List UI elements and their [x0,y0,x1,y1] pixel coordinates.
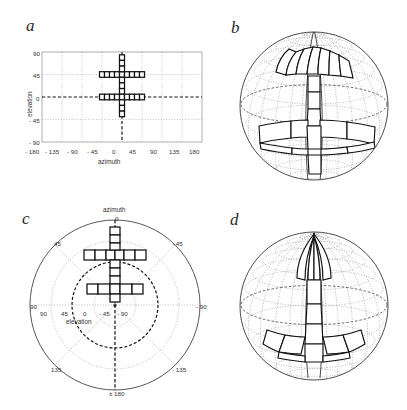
panel-a-letter: a [26,16,35,36]
panel-a-ytick-0: 0 [36,95,39,102]
panel-d: d [203,200,407,410]
panel-a-ytick-90: 90 [33,50,40,57]
panel-c: c azimuth 0 45 - 45 90 - 90 135 - 135 ± … [0,200,204,410]
panel-a: a 90 45 0 - 45 - 90 elevation - 180 - 13… [0,0,204,205]
panel-a-ytick-m45: - 45 [29,117,40,124]
panel-a-xlabel: azimuth [98,158,120,165]
panel-b-sphere [229,14,399,194]
panel-a-plot [42,52,202,152]
panel-a-ytick-m90: - 90 [29,139,40,146]
panel-a-ylabel: elevation [26,91,33,117]
panel-a-ytick-45: 45 [33,72,40,79]
panel-a-xtick-m180: - 180 [25,148,39,155]
panel-b: b [203,0,407,205]
panel-d-sphere [229,220,399,400]
panel-c-polar [12,212,202,402]
